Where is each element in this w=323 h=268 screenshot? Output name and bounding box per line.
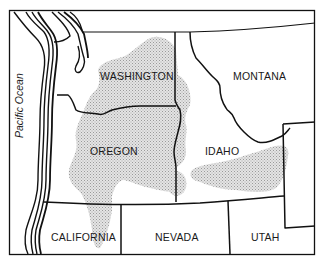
id-mt-border: [190, 32, 290, 143]
state-label-washington: WASHINGTON: [100, 70, 174, 82]
canada-border: [82, 23, 315, 32]
state-label-montana: MONTANA: [233, 70, 286, 82]
state-label-oregon: OREGON: [90, 145, 138, 157]
wyoming-border: [283, 122, 315, 228]
map: Pacific Ocean WASHINGTON MONTANA OREGON …: [0, 0, 323, 268]
southern-border: [44, 196, 284, 204]
shaded-region: [69, 37, 289, 249]
state-label-nevada: NEVADA: [155, 231, 199, 243]
state-label-california: CALIFORNIA: [51, 231, 116, 243]
state-label-idaho: IDAHO: [205, 145, 239, 157]
ocean-label: Pacific Ocean: [13, 73, 25, 138]
state-label-utah: UTAH: [251, 231, 280, 243]
nv-ut-border: [228, 201, 230, 254]
